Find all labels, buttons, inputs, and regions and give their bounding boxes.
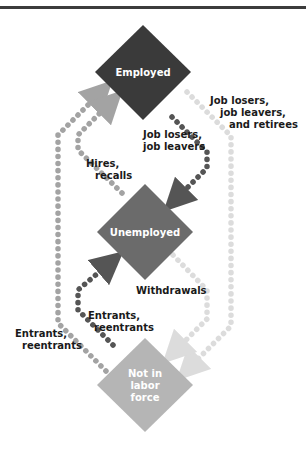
labor-flow-diagram: Employed Unemployed Not in labor force [0,0,306,449]
label-line: Job losers, [143,129,205,141]
flow-withdrawals [173,255,207,352]
nilf-label-line3: force [131,392,160,403]
label-line: Entrants, [15,328,82,340]
nilf-label-line2: labor [130,380,159,391]
label-line: Hires, [86,158,132,170]
label-job-losers-leavers-retirees: Job losers, job leavers, and retirees [210,95,298,131]
label-line: job leavers [143,141,205,153]
label-line: recalls [86,170,132,182]
label-job-losers-leavers: Job losers, job leavers [143,129,205,153]
label-entrants-to-employed: Entrants, reentrants [15,328,82,352]
label-withdrawals: Withdrawals [136,285,207,297]
label-line: Entrants, [88,310,154,322]
label-entrants-to-unemployed: Entrants, reentrants [88,310,154,334]
label-line: reentrants [15,340,82,352]
node-not-in-labor-force: Not in labor force [97,338,193,432]
label-line: and retirees [210,119,298,131]
label-line: job leavers, [210,107,298,119]
label-line: reentrants [88,322,154,334]
label-line: Job losers, [210,95,298,107]
nilf-label-line1: Not in [128,368,162,379]
label-line: Withdrawals [136,285,207,297]
label-hires-recalls: Hires, recalls [86,158,132,182]
unemployed-label: Unemployed [110,227,180,238]
employed-label: Employed [115,67,170,78]
